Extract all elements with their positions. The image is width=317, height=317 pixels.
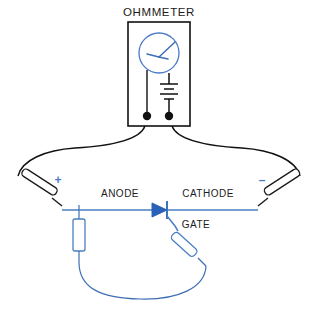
diagram-canvas: + – OHMMETER ANODE CATHODE GATE xyxy=(0,0,317,317)
thyristor-scr-symbol xyxy=(152,201,178,231)
probe-negative-tip xyxy=(258,198,268,206)
test-lead-positive-wire xyxy=(18,126,145,176)
probe-positive-barrel xyxy=(21,168,59,196)
probe-negative-barrel xyxy=(263,168,301,196)
polarity-positive-label: + xyxy=(54,173,61,187)
ohmmeter-title: OHMMETER xyxy=(123,6,195,18)
analog-meter-gauge xyxy=(139,33,179,73)
test-lead-negative-wire xyxy=(172,126,300,176)
clip-gate-barrel xyxy=(170,231,198,258)
circuit-diagram: + – OHMMETER ANODE CATHODE GATE xyxy=(0,0,317,317)
clip-lead-anode[interactable] xyxy=(73,205,85,262)
clip-gate-bottom-lead xyxy=(198,258,206,266)
ohmmeter-terminal-left[interactable] xyxy=(143,112,151,120)
clip-lead-gate[interactable] xyxy=(170,231,206,266)
ohmmeter-terminal-right[interactable] xyxy=(165,112,173,120)
gate-anode-jumper-wire xyxy=(79,262,206,299)
polarity-negative-label: – xyxy=(259,173,266,187)
cathode-label: CATHODE xyxy=(182,188,234,199)
clip-anode-barrel xyxy=(73,219,85,251)
scr-triangle xyxy=(152,203,167,217)
gate-label: GATE xyxy=(182,219,210,230)
probe-positive-tip xyxy=(52,198,62,206)
scr-gate-lead xyxy=(167,216,178,231)
anode-label: ANODE xyxy=(101,188,139,199)
